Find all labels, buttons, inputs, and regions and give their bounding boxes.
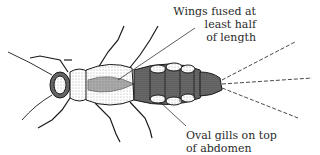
cerci: [222, 42, 312, 118]
insect-diagram: Wings fused at least half of length Oval…: [0, 0, 320, 155]
callout-wings-line2: of length: [152, 31, 256, 44]
callout-gills-line2: of abdomen: [186, 142, 306, 155]
callout-gills-label: Oval gills on top of abdomen: [186, 129, 306, 155]
antennae: [8, 52, 52, 120]
callout-wings-label: Wings fused at least half of length: [152, 5, 256, 44]
callout-gills-line1: Oval gills on top: [186, 129, 306, 142]
callout-wings-line1: Wings fused at least half: [152, 5, 256, 31]
body: [50, 63, 222, 105]
